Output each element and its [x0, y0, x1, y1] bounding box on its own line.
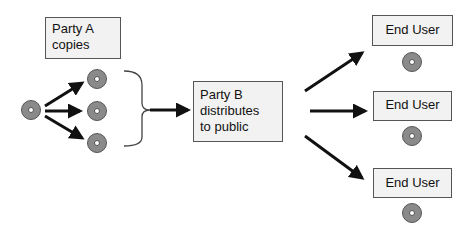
end-user-label: End User — [380, 175, 445, 191]
disc-icon — [402, 203, 422, 223]
disc-icon — [21, 100, 41, 120]
disc-icon — [402, 52, 422, 72]
party-b-label-line-2: distributes — [200, 103, 276, 119]
arrow-icon — [45, 116, 82, 138]
disc-icon — [87, 133, 107, 153]
disc-icon — [87, 101, 107, 121]
end-user-label: End User — [380, 97, 445, 113]
end-user-label: End User — [379, 22, 446, 38]
end-user-box: End User — [372, 15, 453, 46]
brace-icon — [124, 71, 150, 146]
party-a-label-line-2: copies — [52, 37, 114, 53]
arrow-icon — [45, 83, 82, 106]
disc-icon — [402, 126, 422, 146]
arrow-icon — [305, 53, 362, 91]
party-b-box: Party B distributes to public — [193, 81, 283, 142]
arrow-icon — [305, 136, 362, 178]
party-a-box: Party A copies — [45, 17, 121, 59]
end-user-box: End User — [373, 91, 452, 121]
party-a-label-line-1: Party A — [52, 21, 114, 37]
end-user-box: End User — [373, 168, 452, 198]
disc-icon — [87, 69, 107, 89]
party-b-label-line-3: to public — [200, 119, 276, 135]
party-b-label-line-1: Party B — [200, 87, 276, 103]
